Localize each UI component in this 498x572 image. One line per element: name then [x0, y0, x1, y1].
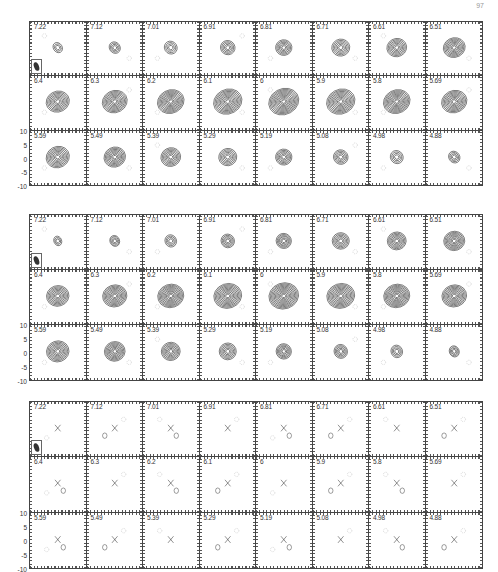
channel-panel: 6	[256, 270, 313, 325]
contour-plot	[200, 402, 256, 456]
channel-panel: 6.4	[30, 457, 87, 512]
channel-panel: 7.22	[30, 215, 87, 270]
contour-plot	[426, 513, 483, 568]
contour-plot	[143, 270, 199, 324]
velocity-label: 5.29	[204, 514, 216, 521]
channel-panel: 6	[256, 76, 313, 130]
velocity-label: 6.1	[204, 77, 212, 84]
contour-plot	[426, 270, 483, 324]
velocity-label: 5.8	[373, 77, 381, 84]
contour-plot	[369, 131, 425, 185]
velocity-label: 7.01	[147, 216, 159, 223]
contour-plot	[313, 270, 369, 324]
contour-plot	[369, 513, 425, 568]
contour-plot	[30, 325, 86, 380]
channel-panel: 4.98	[369, 513, 426, 568]
contour-plot	[200, 131, 256, 185]
beam-ellipse-icon	[31, 440, 42, 455]
contour-plot	[426, 325, 483, 380]
y-tick-label: -5	[21, 364, 27, 371]
velocity-label: 5.69	[430, 271, 442, 278]
velocity-label: 6.4	[34, 271, 42, 278]
contour-plot	[256, 270, 312, 324]
velocity-label: 6.1	[204, 271, 212, 278]
contour-plot	[30, 513, 86, 568]
velocity-label: 7.01	[147, 403, 159, 410]
velocity-label: 5.69	[430, 77, 442, 84]
velocity-label: 6.61	[373, 23, 385, 30]
contour-plot	[256, 457, 312, 511]
contour-plot	[256, 513, 312, 568]
contour-plot	[313, 325, 369, 380]
contour-plot	[143, 402, 199, 456]
y-tick-label: 10	[20, 322, 27, 329]
velocity-label: 6.91	[204, 23, 216, 30]
velocity-label: 6.51	[430, 216, 442, 223]
channel-panel: 5.8	[369, 270, 426, 325]
contour-plot	[426, 402, 483, 456]
channel-panel: 5.39	[143, 131, 200, 185]
contour-plot	[313, 215, 369, 269]
channel-map-block-model: 7.227.127.016.916.816.716.616.516.46.36.…	[29, 214, 483, 381]
velocity-label: 6.1	[204, 458, 212, 465]
velocity-label: 4.98	[373, 514, 385, 521]
channel-panel: 7.22	[30, 22, 87, 76]
velocity-label: 6.91	[204, 216, 216, 223]
velocity-label: 5.59	[34, 514, 46, 521]
channel-panel: 5.9	[313, 270, 370, 325]
velocity-label: 5.08	[317, 326, 329, 333]
channel-panel: 6.61	[369, 215, 426, 270]
y-tick-label: -10	[18, 183, 27, 190]
velocity-label: 6.51	[430, 23, 442, 30]
y-tick-label: -10	[18, 377, 27, 384]
channel-panel: 6.1	[200, 76, 257, 130]
velocity-label: 6.51	[430, 403, 442, 410]
velocity-label: 5.39	[147, 132, 159, 139]
channel-panel: 5.08	[313, 325, 370, 380]
velocity-label: 6.4	[34, 77, 42, 84]
contour-plot	[256, 215, 312, 269]
contour-plot	[200, 325, 256, 380]
velocity-label: 7.22	[34, 403, 46, 410]
channel-panel: 5.59	[30, 325, 87, 380]
velocity-label: 4.98	[373, 326, 385, 333]
velocity-label: 5.19	[260, 132, 272, 139]
velocity-label: 6.61	[373, 216, 385, 223]
channel-panel: 6.3	[87, 270, 144, 325]
channel-grid: 7.227.127.016.916.816.716.616.516.46.36.…	[29, 21, 483, 186]
channel-panel: 7.12	[87, 22, 144, 76]
velocity-label: 5.19	[260, 326, 272, 333]
y-tick-label: -5	[21, 169, 27, 176]
channel-panel: 7.01	[143, 22, 200, 76]
channel-panel: 6.4	[30, 76, 87, 130]
contour-plot	[369, 215, 425, 269]
y-axis-ticks: 1050-5-10	[3, 131, 27, 186]
contour-plot	[30, 457, 86, 511]
velocity-label: 5.29	[204, 326, 216, 333]
velocity-label: 5.9	[317, 77, 325, 84]
contour-plot	[87, 215, 143, 269]
velocity-label: 5.8	[373, 271, 381, 278]
contour-plot	[256, 76, 312, 129]
contour-plot	[143, 215, 199, 269]
channel-panel: 6.81	[256, 402, 313, 457]
contour-plot	[313, 513, 369, 568]
velocity-label: 6.81	[260, 403, 272, 410]
velocity-label: 6.4	[34, 458, 42, 465]
velocity-label: 4.98	[373, 132, 385, 139]
channel-panel: 5.29	[200, 325, 257, 380]
velocity-label: 7.01	[147, 23, 159, 30]
channel-panel: 4.98	[369, 131, 426, 185]
y-tick-label: 0	[23, 350, 27, 357]
contour-plot	[200, 270, 256, 324]
channel-panel: 6.71	[313, 402, 370, 457]
y-axis-ticks: 1050-5-10	[3, 325, 27, 381]
contour-plot	[313, 131, 369, 185]
channel-panel: 5.8	[369, 457, 426, 512]
contour-plot	[313, 457, 369, 511]
velocity-label: 7.22	[34, 23, 46, 30]
velocity-label: 5.39	[147, 326, 159, 333]
channel-panel: 5.39	[143, 325, 200, 380]
velocity-label: 6.71	[317, 216, 329, 223]
velocity-label: 6.81	[260, 23, 272, 30]
